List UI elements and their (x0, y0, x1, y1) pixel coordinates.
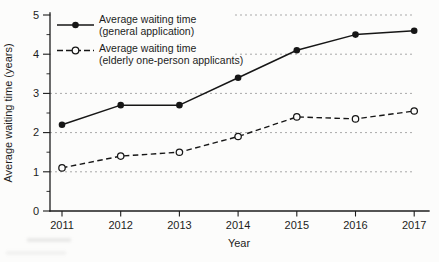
data-point (176, 149, 182, 155)
data-point (411, 27, 418, 34)
waiting-time-chart: Average waiting time (general applicatio… (0, 0, 439, 262)
data-point (117, 102, 124, 109)
x-tick-label: 2015 (285, 219, 309, 231)
legend-label-elderly-line1: Average waiting time (99, 42, 196, 54)
y-tick-label: 4 (33, 48, 39, 60)
data-point (352, 116, 358, 122)
legend: Average waiting time (general applicatio… (51, 9, 243, 68)
data-point (352, 31, 359, 38)
y-tick-label: 3 (33, 87, 39, 99)
waiting-time-figure: Average waiting time (general applicatio… (0, 0, 439, 262)
legend-label-elderly-line2: (elderly one-person applicants) (99, 54, 243, 66)
y-tick-label: 1 (33, 166, 39, 178)
legend-marker-open-circle-icon (72, 47, 79, 54)
data-point (176, 102, 183, 109)
x-axis-title: Year (228, 237, 251, 249)
y-axis-title: Average waiting time (years) (2, 43, 14, 182)
x-tick-label: 2012 (108, 219, 132, 231)
x-tick-label: 2013 (167, 219, 191, 231)
data-point (59, 121, 66, 128)
y-tick-label: 2 (33, 126, 39, 138)
x-tick-label: 2014 (226, 219, 250, 231)
data-point (235, 133, 241, 139)
legend-marker-filled-circle-icon (72, 22, 79, 29)
y-tick-label: 0 (33, 205, 39, 217)
data-point (235, 74, 242, 81)
legend-label-general-line1: Average waiting time (99, 13, 196, 25)
x-tick-label: 2017 (402, 219, 426, 231)
y-tick-label: 5 (33, 9, 39, 21)
x-tick-label: 2011 (50, 219, 74, 231)
data-point (118, 153, 124, 159)
data-point (59, 165, 65, 171)
x-tick-label: 2016 (343, 219, 367, 231)
legend-label-general-line2: (general application) (99, 25, 194, 37)
data-point (411, 108, 417, 114)
data-point (294, 47, 301, 54)
data-point (294, 114, 300, 120)
